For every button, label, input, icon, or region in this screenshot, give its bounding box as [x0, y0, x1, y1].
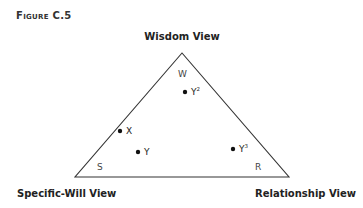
- point-y3-label: Y3: [238, 143, 249, 154]
- point-x-label: X: [126, 126, 132, 136]
- triangle-diagram: W S R Y2 X Y Y3: [0, 0, 363, 208]
- corner-s: S: [97, 162, 103, 172]
- point-y2-label: Y2: [190, 86, 200, 97]
- point-y2: Y2: [183, 86, 200, 97]
- point-y: Y: [136, 147, 150, 157]
- corner-r: R: [255, 162, 261, 172]
- point-x: X: [118, 126, 132, 136]
- point-x-dot: [118, 129, 122, 133]
- corner-w: W: [178, 69, 187, 79]
- point-y3-dot: [231, 147, 235, 151]
- point-y-label: Y: [143, 147, 150, 157]
- point-y2-dot: [183, 90, 187, 94]
- point-y3: Y3: [231, 143, 249, 154]
- point-y-dot: [136, 150, 140, 154]
